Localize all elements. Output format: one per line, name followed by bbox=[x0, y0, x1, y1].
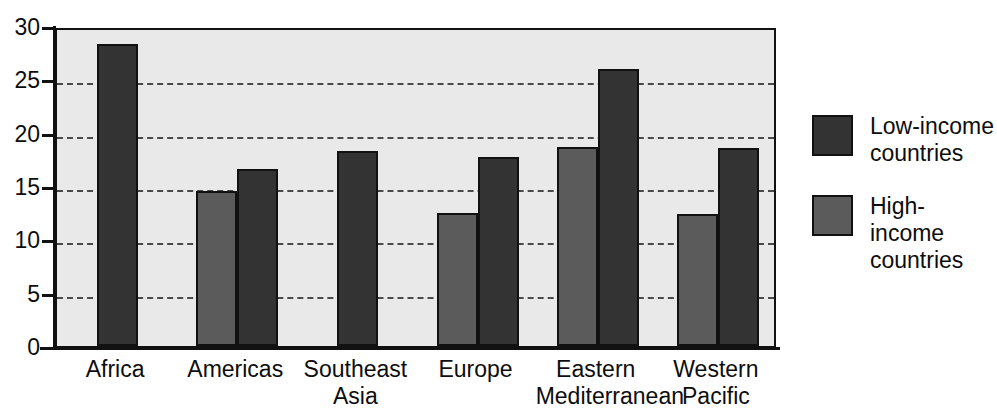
legend-label-low-income: Low-income countries bbox=[870, 113, 994, 167]
bar bbox=[237, 169, 278, 346]
x-tick-label: Western Pacific bbox=[656, 356, 776, 410]
bar bbox=[437, 213, 478, 346]
x-tick-label: Southeast Asia bbox=[295, 356, 415, 410]
legend-item-low-income: Low-income countries bbox=[812, 113, 997, 167]
y-tick-label: 10 bbox=[4, 229, 40, 252]
x-axis-line bbox=[40, 347, 780, 350]
y-tick-label: 25 bbox=[4, 69, 40, 92]
x-tick-label: Europe bbox=[416, 356, 536, 383]
x-tick-label: Eastern Mediterranean bbox=[536, 356, 656, 410]
high-income-swatch-icon bbox=[812, 195, 853, 236]
chart-legend: Low-income countries High-income countri… bbox=[812, 113, 997, 300]
bar bbox=[196, 191, 237, 346]
y-axis-tick-mark bbox=[42, 27, 55, 30]
bar bbox=[557, 147, 598, 346]
bar bbox=[97, 44, 138, 346]
y-tick-label: 0 bbox=[4, 336, 40, 359]
plot-area bbox=[55, 28, 776, 348]
legend-label-high-income: High-income countries bbox=[870, 193, 997, 274]
y-axis-tick-mark bbox=[42, 240, 55, 243]
y-tick-label: 30 bbox=[4, 16, 40, 39]
y-axis-tick-mark bbox=[42, 80, 55, 83]
bar bbox=[718, 148, 759, 346]
bar-chart-figure: 302520151050 AfricaAmericasSoutheast Asi… bbox=[0, 0, 997, 416]
low-income-swatch-icon bbox=[812, 115, 853, 156]
y-axis-tick-mark bbox=[42, 134, 55, 137]
bar bbox=[478, 157, 519, 346]
bars-layer bbox=[57, 30, 774, 346]
y-axis-tick-mark bbox=[42, 187, 55, 190]
bar bbox=[337, 151, 378, 346]
x-tick-label: Americas bbox=[175, 356, 295, 383]
y-tick-label: 5 bbox=[4, 283, 40, 306]
y-tick-label: 15 bbox=[4, 176, 40, 199]
bar bbox=[598, 69, 639, 346]
y-tick-label: 20 bbox=[4, 123, 40, 146]
y-axis-tick-labels: 302520151050 bbox=[0, 0, 40, 416]
x-tick-label: Africa bbox=[55, 356, 175, 383]
bar bbox=[677, 214, 718, 346]
y-axis-tick-mark bbox=[42, 294, 55, 297]
legend-item-high-income: High-income countries bbox=[812, 193, 997, 274]
